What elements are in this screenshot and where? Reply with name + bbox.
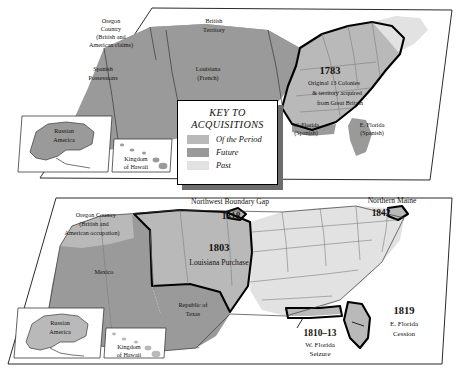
legend-title-line1: KEY TO (185, 107, 270, 119)
label-spanish-possessions-line1: Spanish (93, 65, 114, 72)
label-louisiana-french-line1: Louisiana (196, 65, 221, 72)
label-east-florida-cession-line1: E. Florida (390, 320, 419, 328)
label-russian-america-line2: America (53, 136, 75, 143)
bottom-map-svg: Oregon Country (British and American occ… (0, 186, 465, 375)
label-louisiana-purchase: Louisiana Purchase (189, 258, 249, 267)
legend-row-past: Past (187, 161, 270, 170)
legend-swatch-past (187, 161, 209, 170)
bottom-map-alaska-inset: Russian America (14, 308, 104, 358)
label-oregon-country-line2: Country (101, 25, 122, 32)
label-year-1842: 1842 (372, 208, 391, 218)
bottom-map-panel: Oregon Country (British and American occ… (0, 186, 465, 375)
label-russian-america-line1: Russian (50, 319, 70, 326)
label-colonies-line1: Original 13 Colonies (308, 79, 360, 86)
label-oregon-occupation-line1: Oregon Country (76, 211, 117, 218)
label-year-1818: 1818 (222, 211, 241, 221)
label-east-florida-cession-line2: Cession (393, 330, 416, 338)
label-republic-of-texas-line1: Republic of (178, 301, 208, 308)
label-west-florida-seizure-line2: Seizure (310, 350, 331, 358)
label-oregon-country-line3: (British and (96, 33, 126, 41)
legend-label-past: Past (216, 161, 231, 170)
bottom-map-hawaii-inset: Kingdom of Hawaii (104, 328, 166, 358)
legend-key-panel: KEY TO ACQUISITIONS Of the Period Future… (177, 100, 278, 185)
label-year-1810-13: 1810–13 (304, 328, 337, 338)
label-west-florida-line1: W. Florida (293, 121, 319, 128)
legend-label-future: Future (216, 148, 238, 157)
legend-label-of-the-period: Of the Period (216, 135, 262, 144)
label-british-territory-line1: British (206, 17, 224, 24)
label-east-florida-line2: (Spanish) (360, 129, 384, 137)
label-republic-of-texas-line2: Texas (186, 310, 201, 317)
label-russian-america-line2: America (49, 328, 71, 335)
label-hawaii-line1: Kingdom (117, 343, 141, 350)
label-colonies-line2: & territory acquired (312, 89, 362, 96)
label-oregon-occupation-line2: (British and (79, 220, 109, 228)
label-oregon-country-line1: Oregon (102, 17, 121, 24)
label-year-1783: 1783 (320, 65, 341, 76)
region-thirteen-colonies (282, 22, 404, 130)
label-west-florida-seizure-line1: W. Florida (305, 341, 336, 349)
legend-swatch-of-the-period (187, 135, 209, 144)
legend-swatch-future (187, 148, 209, 157)
label-oregon-occupation-line3: American occupation) (64, 229, 119, 237)
label-hawaii-line2: of Hawaii (117, 351, 142, 358)
label-west-florida-line2: (Spanish) (294, 129, 318, 137)
label-british-territory-line2: Territory (203, 26, 226, 33)
label-year-1819: 1819 (394, 305, 415, 316)
top-map-alaska-inset: Russian America (18, 116, 112, 172)
label-louisiana-french-line2: (French) (197, 74, 218, 82)
legend-title: KEY TO ACQUISITIONS (185, 107, 270, 130)
label-hawaii-line2: of Hawaii (124, 163, 149, 170)
label-northern-maine: Northern Maine (368, 196, 417, 205)
label-year-1803: 1803 (209, 242, 230, 253)
label-russian-america-line1: Russian (54, 127, 74, 134)
pointer-west-florida (297, 318, 303, 328)
legend-row-of-the-period: Of the Period (187, 135, 270, 144)
label-spanish-possessions-line2: Possessions (88, 74, 118, 81)
label-northwest-boundary-gap: Northwest Boundary Gap (191, 197, 269, 206)
label-mexico: Mexico (95, 268, 114, 275)
label-oregon-country-line4: American claims) (89, 41, 133, 49)
label-colonies-line3: from Great Britain (317, 99, 363, 106)
label-hawaii-line1: Kingdom (124, 155, 148, 162)
top-map-hawaii-inset: Kingdom of Hawaii (112, 139, 172, 172)
legend-row-future: Future (187, 148, 270, 157)
label-east-florida-line1: E. Florida (360, 121, 385, 128)
legend-title-line2: ACQUISITIONS (185, 119, 270, 131)
